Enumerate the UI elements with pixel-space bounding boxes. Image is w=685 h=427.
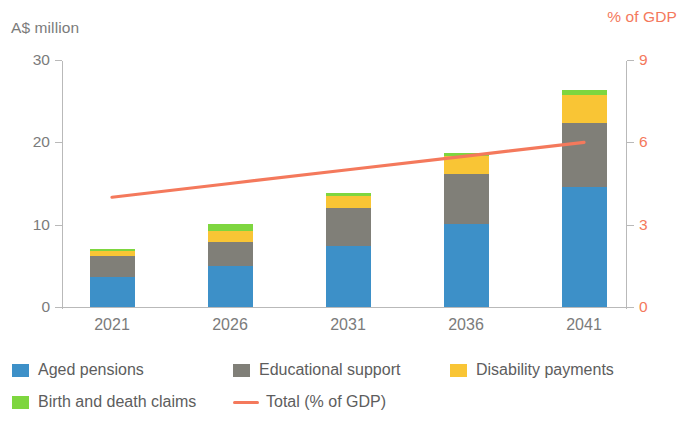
bar-segment-educational_support	[90, 256, 135, 277]
bar-segment-educational_support	[208, 242, 253, 266]
bar-segment-birth_and_death_claims	[208, 224, 253, 231]
right-axis-tick	[627, 142, 634, 143]
legend-item-disability-payments[interactable]: Disability payments	[450, 362, 614, 378]
left-axis-tick	[55, 225, 62, 226]
bar-segment-aged_pensions	[444, 224, 489, 307]
swatch-total-line-icon	[233, 401, 259, 404]
right-axis-tick-label: 6	[639, 135, 648, 151]
left-axis-tick-label: 20	[33, 135, 50, 151]
swatch-birth-and-death-claims-icon	[12, 396, 29, 409]
left-axis-tick-label: 10	[33, 217, 50, 233]
swatch-disability-payments-icon	[450, 364, 467, 377]
legend-item-educational-support[interactable]: Educational support	[233, 362, 400, 378]
x-axis-label-2031: 2031	[313, 316, 383, 334]
swatch-educational-support-icon	[233, 364, 250, 377]
bar-segment-aged_pensions	[90, 277, 135, 307]
right-axis-title: % of GDP	[607, 8, 677, 26]
bar-2041[interactable]	[562, 90, 607, 307]
left-axis-line	[62, 61, 63, 309]
legend-label-disability-payments: Disability payments	[476, 362, 614, 378]
bar-segment-educational_support	[562, 123, 607, 187]
legend-item-birth-and-death-claims[interactable]: Birth and death claims	[12, 394, 196, 410]
chart-container: A$ million % of GDP 0102030 0369 2021202…	[0, 0, 685, 427]
bar-segment-disability_payments	[562, 95, 607, 123]
bar-segment-disability_payments	[208, 231, 253, 242]
x-axis-label-2041: 2041	[549, 316, 619, 334]
bar-segment-aged_pensions	[208, 266, 253, 307]
legend-item-total-gdp[interactable]: Total (% of GDP)	[233, 394, 386, 410]
bar-2021[interactable]	[90, 249, 135, 307]
x-axis-label-2036: 2036	[431, 316, 501, 334]
legend: Aged pensions Educational support Disabi…	[10, 358, 682, 420]
right-axis-tick	[627, 60, 634, 61]
left-axis-title: A$ million	[11, 19, 79, 37]
left-axis-tick-label: 30	[33, 52, 50, 68]
x-axis-label-2021: 2021	[77, 316, 147, 334]
legend-label-total-gdp: Total (% of GDP)	[266, 394, 386, 410]
legend-item-aged-pensions[interactable]: Aged pensions	[12, 362, 144, 378]
bar-2031[interactable]	[326, 193, 371, 307]
right-axis-tick-label: 0	[639, 299, 648, 315]
left-axis-tick	[55, 142, 62, 143]
bar-segment-disability_payments	[326, 196, 371, 208]
legend-label-aged-pensions: Aged pensions	[38, 362, 144, 378]
right-axis-tick	[627, 307, 634, 308]
plot-area: 0102030 0369	[62, 58, 627, 308]
left-axis-tick-label: 0	[41, 299, 50, 315]
x-axis-label-2026: 2026	[195, 316, 265, 334]
bar-segment-aged_pensions	[326, 246, 371, 307]
swatch-aged-pensions-icon	[12, 364, 29, 377]
right-axis-line	[626, 61, 627, 309]
bar-segment-aged_pensions	[562, 187, 607, 307]
bar-segment-disability_payments	[444, 156, 489, 174]
bar-2026[interactable]	[208, 224, 253, 307]
legend-label-educational-support: Educational support	[259, 362, 400, 378]
legend-label-birth-and-death-claims: Birth and death claims	[38, 394, 196, 410]
left-axis-tick	[55, 60, 62, 61]
bar-segment-educational_support	[326, 208, 371, 246]
left-axis-tick	[55, 307, 62, 308]
right-axis-tick-label: 3	[639, 217, 648, 233]
bar-2036[interactable]	[444, 153, 489, 307]
right-axis-tick	[627, 225, 634, 226]
right-axis-tick-label: 9	[639, 52, 648, 68]
x-axis-line	[56, 307, 633, 308]
bar-segment-educational_support	[444, 174, 489, 223]
